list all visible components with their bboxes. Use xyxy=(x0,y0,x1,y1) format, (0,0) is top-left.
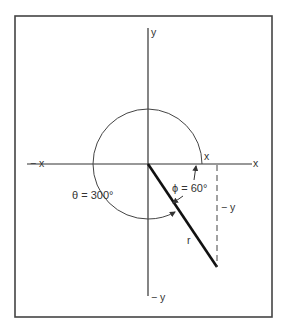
x-component-label: x xyxy=(204,151,209,162)
radius-label: r xyxy=(187,235,191,246)
x-axis-positive-label: x xyxy=(253,158,258,169)
radius-vector xyxy=(148,164,217,267)
diagram-canvas: y − x x − y x ϕ = 60° θ = 300° − y r xyxy=(0,0,281,332)
phi-arrow-up xyxy=(194,166,196,180)
phi-arrow-down xyxy=(173,196,183,203)
frame-border xyxy=(15,16,272,317)
y-component-label: − y xyxy=(221,202,235,213)
phi-label: ϕ = 60° xyxy=(172,183,207,194)
x-axis-negative-label: − x xyxy=(30,158,44,169)
y-axis-positive-label: y xyxy=(151,27,156,38)
theta-label: θ = 300° xyxy=(72,190,113,201)
y-axis-negative-label: − y xyxy=(151,292,165,303)
